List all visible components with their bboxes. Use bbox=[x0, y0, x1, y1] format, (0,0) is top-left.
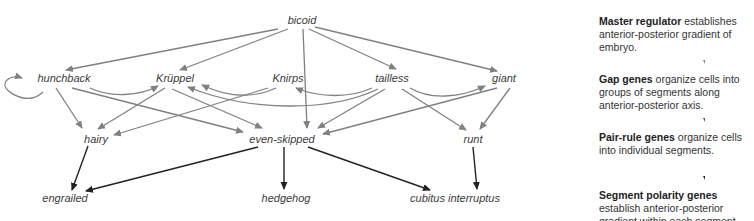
node-engrailed: engrailed bbox=[42, 192, 87, 204]
node-hairy: hairy bbox=[84, 133, 108, 145]
edge-hairy-engrailed bbox=[72, 146, 88, 190]
down-arrow-icon bbox=[703, 157, 705, 185]
edge-hunchback-hairy bbox=[56, 88, 82, 128]
step-title: Pair-rule genes bbox=[599, 131, 675, 143]
node-kruppel: Krüppel bbox=[156, 72, 194, 84]
node-hunchback: hunchback bbox=[37, 72, 90, 84]
hierarchy-legend-panel: Master regulator establishes anterior-po… bbox=[599, 0, 754, 221]
edge-tailless-knirps bbox=[296, 88, 372, 96]
edge-knirps-hairy bbox=[114, 88, 268, 135]
edge-bicoid-kruppel bbox=[180, 29, 288, 70]
step-segment-polarity-genes: Segment polarity genes establish anterio… bbox=[599, 189, 754, 221]
step-title: Segment polarity genes bbox=[599, 189, 717, 201]
node-knirps: Knirps bbox=[272, 72, 303, 84]
down-arrow-icon bbox=[703, 45, 705, 69]
node-even-skipped: even-skipped bbox=[249, 133, 314, 145]
step-gap-genes: Gap genes organize cells into groups of … bbox=[599, 73, 754, 112]
gene-network-diagram bbox=[0, 0, 590, 221]
edge-bicoid-hunchback bbox=[66, 29, 278, 70]
step-pair-rule-genes: Pair-rule genes organize cells into indi… bbox=[599, 131, 754, 157]
step-description: establish anterior-posterior gradient wi… bbox=[599, 202, 739, 221]
node-tailless: tailless bbox=[375, 72, 409, 84]
node-runt: runt bbox=[464, 133, 483, 145]
edge-even-skipped-engrailed bbox=[86, 147, 258, 191]
edge-knirps-kruppel bbox=[202, 85, 276, 95]
step-title: Master regulator bbox=[599, 15, 681, 27]
node-hedgehog: hedgehog bbox=[262, 192, 311, 204]
edge-bicoid-even-skipped bbox=[303, 29, 307, 128]
edge-bicoid-giant bbox=[315, 27, 497, 71]
edge-runt-cubitus bbox=[473, 147, 477, 189]
down-arrow-icon bbox=[703, 103, 705, 127]
node-cubitus-interruptus: cubitus interruptus bbox=[410, 192, 500, 204]
edge-even-skipped-cubitus bbox=[308, 147, 430, 190]
step-title: Gap genes bbox=[599, 73, 653, 85]
edge-bicoid-tailless bbox=[309, 29, 396, 69]
node-bicoid: bicoid bbox=[288, 14, 317, 26]
edge-hunchback-even-skipped bbox=[72, 88, 243, 132]
node-giant: giant bbox=[492, 72, 516, 84]
step-master-regulator: Master regulator establishes anterior-po… bbox=[599, 15, 754, 54]
edge-giant-runt bbox=[480, 88, 510, 129]
edge-hunchback-kruppel bbox=[90, 86, 158, 95]
